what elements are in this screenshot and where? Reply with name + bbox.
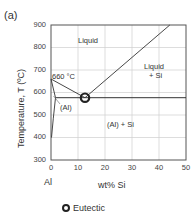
liquidus-al-line bbox=[51, 79, 85, 98]
solidus-line bbox=[51, 79, 56, 98]
region-liquid-si-l1: Liquid bbox=[144, 62, 164, 71]
open-circle-icon bbox=[62, 204, 70, 212]
solvus-line bbox=[52, 98, 56, 138]
legend-eutectic-label: Eutectic bbox=[73, 203, 105, 213]
region-liquid-si-l2: + Si bbox=[149, 71, 162, 80]
region-liquid: Liquid bbox=[78, 36, 98, 45]
gridlines bbox=[51, 25, 186, 160]
region-al-si: (Al) + Si bbox=[107, 120, 134, 129]
legend: Eutectic bbox=[62, 203, 105, 213]
melting-point-annotation: 660 °C bbox=[52, 72, 75, 81]
phase-diagram-plot bbox=[0, 0, 194, 224]
region-al: (Al) bbox=[60, 103, 72, 112]
